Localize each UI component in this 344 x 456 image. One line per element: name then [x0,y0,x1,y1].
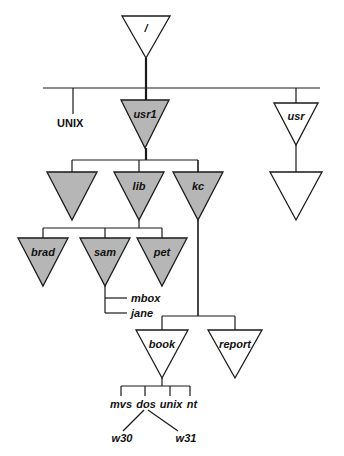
node-kc[interactable]: kc [173,172,223,220]
tree-canvas: / usr1 usr lib kc [0,0,344,456]
edge-dos-to-w30 [123,410,144,431]
usr1-label: usr1 [133,108,156,120]
node-book[interactable]: book [136,330,188,378]
node-pet[interactable]: pet [137,238,187,286]
file-mbox[interactable]: mbox [131,292,161,304]
leaf-nt[interactable]: nt [187,398,199,410]
leaf-w31[interactable]: w31 [176,432,197,444]
kc-label: kc [192,180,204,192]
usr-label: usr [287,110,305,122]
node-bin[interactable] [47,172,97,220]
leaf-mvs[interactable]: mvs [110,398,132,410]
node-sam[interactable]: sam [80,238,130,286]
brad-label: brad [31,246,55,258]
node-report[interactable]: report [208,330,262,378]
leaf-dos[interactable]: dos [136,398,156,410]
bin-triangle [47,172,97,220]
usr-child-triangle [270,172,322,220]
node-usr[interactable]: usr [274,103,318,145]
edge-dos-to-w31 [148,410,178,431]
sam-label: sam [94,246,116,258]
book-label: book [149,338,176,350]
leaf-unix[interactable]: unix [160,398,183,410]
file-jane[interactable]: jane [129,307,153,319]
pet-label: pet [153,246,172,258]
node-lib[interactable]: lib [114,172,164,220]
unix-system-label: UNIX [57,117,84,129]
node-usr-child[interactable] [270,172,322,220]
leaf-w30[interactable]: w30 [112,432,134,444]
lib-label: lib [133,180,146,192]
filesystem-tree-diagram: / usr1 usr lib kc [0,0,344,456]
node-root[interactable]: / [122,16,170,58]
report-label: report [219,338,252,350]
node-brad[interactable]: brad [18,238,68,286]
node-usr1[interactable]: usr1 [121,100,169,148]
